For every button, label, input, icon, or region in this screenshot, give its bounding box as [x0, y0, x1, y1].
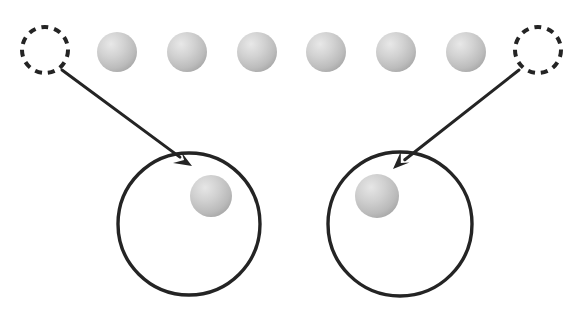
- big-circle-left: [118, 153, 260, 295]
- dashed-circle-left: [22, 27, 68, 73]
- arrow-left: [62, 70, 192, 166]
- big-circle-group: [118, 152, 472, 296]
- arrow-group: [62, 70, 519, 169]
- arrow-right-shaft: [405, 70, 519, 160]
- top-sphere-6: [446, 32, 486, 72]
- inner-sphere-group: [190, 174, 399, 218]
- top-sphere-1: [97, 32, 137, 72]
- top-sphere-2: [167, 32, 207, 72]
- dashed-circle-right: [515, 27, 561, 73]
- top-sphere-3: [237, 32, 277, 72]
- arrow-left-shaft: [62, 70, 180, 157]
- inner-sphere-right: [355, 174, 399, 218]
- big-circle-right: [328, 152, 472, 296]
- top-sphere-4: [306, 32, 346, 72]
- top-sphere-row: [97, 32, 486, 72]
- figure-canvas: [0, 0, 581, 310]
- inner-sphere-left: [190, 175, 232, 217]
- diagram-svg: [0, 0, 581, 310]
- top-sphere-5: [376, 32, 416, 72]
